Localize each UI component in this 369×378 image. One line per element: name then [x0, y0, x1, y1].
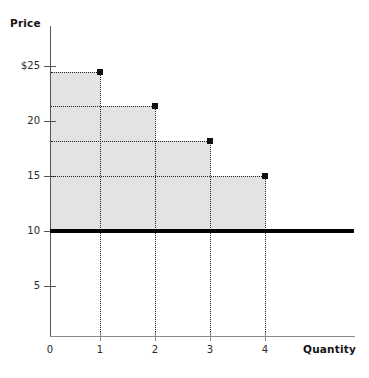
guide-vline-q3: [210, 141, 211, 332]
y-tick-mark-5: [44, 286, 56, 287]
guide-vline-q2: [155, 106, 156, 332]
surplus-bar-q1: [51, 72, 100, 230]
y-tick-mark-20: [44, 121, 56, 122]
x-tick-label-3: 3: [200, 344, 220, 355]
data-point-q3: [207, 138, 213, 144]
y-tick-label-10: 10: [4, 225, 40, 236]
marginal-cost-line: [50, 229, 354, 233]
x-tick-mark-2: [155, 331, 156, 341]
x-tick-label-4: 4: [255, 344, 275, 355]
guide-vline-q1: [100, 72, 101, 332]
price-quantity-step-chart: Price Quantity $25 20 15 10 5 0 1 2 3 4: [0, 0, 369, 378]
x-tick-label-1: 1: [90, 344, 110, 355]
guide-hline-15: [51, 176, 266, 177]
data-point-q2: [152, 103, 158, 109]
surplus-bar-q2: [100, 106, 155, 230]
x-tick-label-0: 0: [40, 344, 60, 355]
x-axis-line: [50, 336, 355, 337]
guide-hline-24: [51, 72, 101, 73]
y-tick-label-15: 15: [4, 170, 40, 181]
guide-hline-21: [51, 106, 156, 107]
y-tick-label-5: 5: [4, 280, 40, 291]
x-tick-label-2: 2: [145, 344, 165, 355]
x-tick-mark-3: [210, 331, 211, 341]
guide-hline-18: [51, 141, 211, 142]
guide-vline-q4: [265, 176, 266, 332]
y-tick-mark-25: [44, 66, 56, 67]
x-tick-mark-1: [100, 331, 101, 341]
y-tick-label-20: 20: [4, 115, 40, 126]
surplus-bar-q3: [155, 141, 210, 230]
y-axis-title: Price: [10, 17, 41, 29]
x-axis-title: Quantity: [303, 343, 356, 355]
x-tick-mark-4: [265, 331, 266, 341]
data-point-q4: [262, 173, 268, 179]
y-tick-label-25: $25: [4, 60, 40, 71]
surplus-bar-q4: [210, 176, 265, 230]
data-point-q1: [97, 69, 103, 75]
